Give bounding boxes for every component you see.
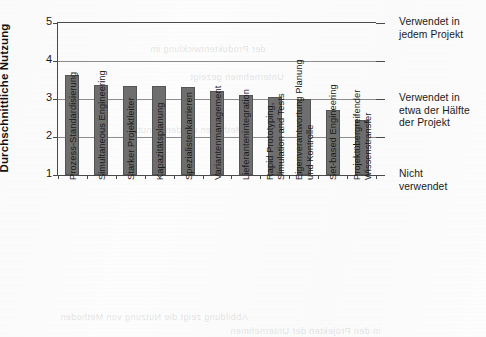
x-tick (231, 175, 232, 179)
y-tick-right-2 (376, 137, 385, 138)
x-tick (203, 175, 204, 179)
x-axis-label: Eigenverantwortung Planung und Kontrolle (294, 59, 315, 180)
gridline-4 (58, 61, 376, 62)
scan-ghost-text: Abbildung zeigt die Nutzung von Methoden (60, 312, 248, 322)
scale-annotation: Verwendet in etwa der Hälfte der Projekt (399, 92, 485, 130)
x-tick (376, 175, 377, 179)
y-tick-4 (53, 61, 58, 62)
x-axis-label: Kapazitätsplanung (155, 103, 166, 180)
x-axis-label: Prozess-Standardisierung (68, 72, 79, 180)
y-axis-title: Durchschnittliche Nutzung (0, 18, 10, 178)
y-tick-label-5: 5 (22, 16, 52, 27)
x-tick (260, 175, 261, 179)
x-tick (289, 175, 290, 179)
x-tick (145, 175, 146, 179)
x-tick (116, 175, 117, 179)
y-tick-2 (53, 137, 58, 138)
y-tick-label-2: 2 (22, 130, 52, 141)
x-axis-label: Starker Projektleiter (126, 97, 137, 180)
y-tick-5 (53, 23, 58, 24)
x-axis-label: Lieferantenintegration (241, 89, 252, 180)
x-tick (347, 175, 348, 179)
y-tick-right-4 (376, 61, 385, 62)
scale-annotation: Nicht verwendet (399, 168, 485, 193)
x-axis-label: Variantenmanagement (213, 86, 224, 180)
scale-annotation: Verwendet in jedem Projekt (399, 16, 485, 41)
y-tick-label-3: 3 (22, 92, 52, 103)
x-tick (318, 175, 319, 179)
x-axis-label: Set-based Engineering (328, 84, 339, 180)
x-axis-label: Spezialistenkarrieren (184, 92, 195, 180)
bar-chart-figure: der Produktentwicklung im Unternehmen ge… (0, 0, 486, 337)
x-tick (87, 175, 88, 179)
x-tick (174, 175, 175, 179)
x-tick (58, 175, 59, 179)
scan-ghost-text: in den Projekten der Unternehmen (230, 326, 380, 336)
x-axis-label: Simultaneous Engineering (97, 70, 108, 180)
y-tick-label-1: 1 (22, 168, 52, 179)
y-tick-right-3 (376, 99, 385, 100)
y-tick-right-1 (376, 175, 385, 176)
x-axis-label: Projektübergreifender Wissenstransfer (352, 90, 373, 180)
y-tick-label-4: 4 (22, 54, 52, 65)
y-tick-right-5 (376, 23, 385, 24)
x-axis-label: Rapid Prototyping, Simulation and Tests (265, 93, 286, 180)
y-tick-3 (53, 99, 58, 100)
